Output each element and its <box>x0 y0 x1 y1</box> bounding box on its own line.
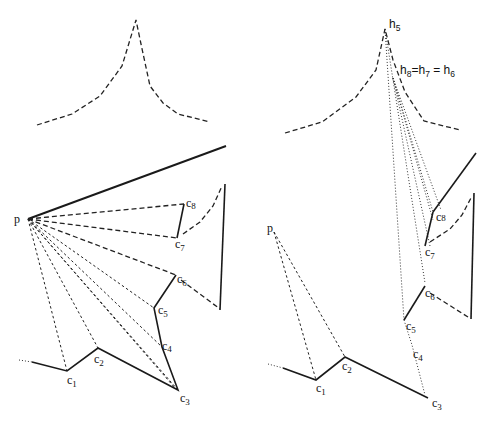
svg-text:c4: c4 <box>162 339 172 354</box>
svg-text:c6: c6 <box>425 286 435 302</box>
equality-label: h8=h7 = h6 <box>400 63 455 79</box>
apex-label: h5 <box>389 17 401 33</box>
right-p-label: p <box>267 221 273 235</box>
svg-text:c7: c7 <box>175 237 185 253</box>
right-polygon-chain <box>283 357 428 398</box>
svg-text:c8: c8 <box>436 210 446 224</box>
svg-text:c5: c5 <box>158 303 168 319</box>
left-long-edge <box>28 146 226 219</box>
left-cusp-curve <box>37 20 210 125</box>
right-cusp-curve <box>285 29 460 133</box>
svg-text:c2: c2 <box>94 352 104 368</box>
svg-text:c1: c1 <box>316 381 326 397</box>
diagram-canvas: p c1 c2 c3 c4 c5 c6 c7 c8 <box>0 0 491 422</box>
svg-text:c4: c4 <box>413 347 423 363</box>
svg-text:c2: c2 <box>342 359 352 375</box>
svg-text:c1: c1 <box>67 373 77 389</box>
left-panel: p c1 c2 c3 c4 c5 c6 c7 c8 <box>14 20 226 407</box>
right-panel: p h5 h8=h7 = h6 c1 c2 c3 c4 c5 c6 c7 c8 <box>267 17 476 412</box>
svg-text:c5: c5 <box>406 319 416 335</box>
svg-text:c7: c7 <box>425 245 435 261</box>
svg-text:c8: c8 <box>186 196 196 211</box>
svg-text:c3: c3 <box>180 391 190 407</box>
svg-text:c6: c6 <box>177 272 187 288</box>
left-p-label: p <box>14 212 20 226</box>
svg-text:c3: c3 <box>432 396 442 412</box>
